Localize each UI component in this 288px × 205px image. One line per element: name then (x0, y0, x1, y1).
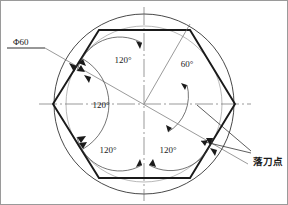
diameter-leader-arrow-inner (84, 75, 91, 83)
diameter-leader-arrow-right (210, 148, 217, 156)
technical-drawing-svg: 60° Φ60 120° 120° 120° 120° 落刀点 (1, 1, 288, 205)
annotation-arrow (201, 140, 208, 146)
angle-label-60: 60° (181, 59, 194, 69)
angle-arrow-60-upper (181, 83, 187, 90)
diameter-leader-diagonal (45, 48, 248, 164)
annotation-label-cjk: 落刀点 (253, 156, 283, 167)
drawing-canvas: 60° Φ60 120° 120° 120° 120° 落刀点 (0, 0, 288, 205)
angle-label-120-topleft: 120° (114, 55, 132, 65)
angle-label-120-left: 120° (92, 100, 110, 110)
angle-arrow-60-lower (166, 125, 172, 132)
diameter-label: Φ60 (13, 37, 29, 47)
angle-arc-60 (168, 85, 188, 132)
angle-label-120-bottomleft: 120° (99, 145, 117, 155)
angle-label-120-bottomright: 120° (159, 145, 177, 155)
angle-arc-120-topleft (77, 37, 142, 71)
